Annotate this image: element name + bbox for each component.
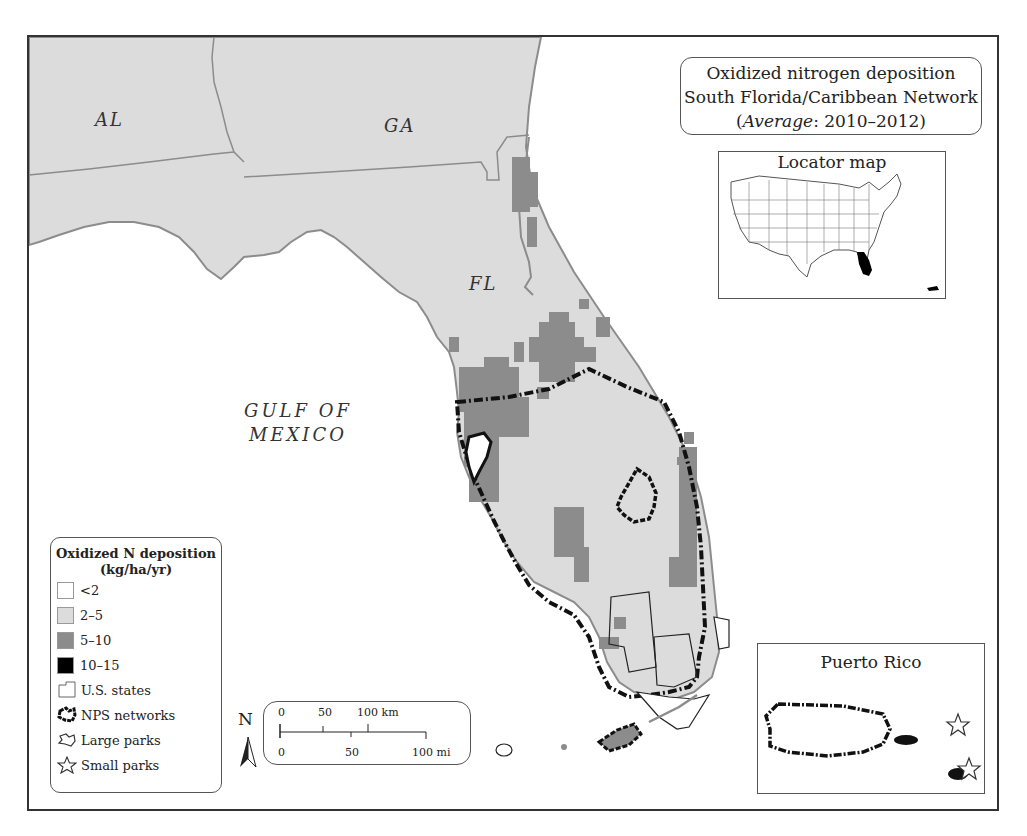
- gulf-label-line2: MEXICO: [244, 423, 352, 447]
- title-line2: South Florida/Caribbean Network: [681, 85, 981, 109]
- gulf-label-line1: GULF OF: [244, 399, 352, 423]
- legend-title-line1: Oxidized N deposition: [51, 546, 221, 562]
- legend-label: NPS networks: [81, 708, 175, 723]
- legend-item-lt2: <2: [57, 580, 99, 600]
- title-average-italic: Average: [743, 111, 813, 131]
- florida-highlight: [857, 252, 872, 276]
- puerto-rico-inset: Puerto Rico: [757, 643, 985, 794]
- title-line3: (Average: 2010–2012): [681, 109, 981, 133]
- scale-bar: 0 50 100 km 0 50 100 mi: [263, 701, 471, 765]
- swatch-5-10: [57, 632, 74, 649]
- title-line1: Oxidized nitrogen deposition: [681, 61, 981, 85]
- legend-label: 10–15: [80, 658, 120, 673]
- legend-item-10-15: 10–15: [57, 655, 120, 675]
- legend-label: Small parks: [81, 758, 159, 773]
- star-icon: [57, 756, 77, 774]
- scale-bar-line: [278, 722, 438, 742]
- state-label-al: AL: [95, 109, 124, 130]
- state-label-ga: GA: [384, 115, 415, 136]
- legend-title: Oxidized N deposition (kg/ha/yr): [51, 546, 221, 578]
- legend-item-5-10: 5–10: [57, 630, 111, 650]
- legend-item-small-parks: Small parks: [57, 755, 159, 775]
- us-outline: [731, 174, 901, 277]
- swatch-2-5: [57, 607, 74, 624]
- florida-keys-patch: [599, 724, 641, 751]
- legend-label: U.S. states: [81, 683, 151, 698]
- dry-tortugas-park: [496, 744, 512, 756]
- scale-mi-100: 100 mi: [412, 746, 450, 759]
- north-arrow-icon: [238, 737, 258, 769]
- legend: Oxidized N deposition (kg/ha/yr) <2 2–5 …: [50, 537, 222, 793]
- gulf-of-mexico-label: GULF OF MEXICO: [244, 399, 352, 447]
- scale-km-0: 0: [278, 706, 285, 719]
- vieques-outline: [894, 735, 918, 745]
- legend-label: <2: [80, 583, 99, 598]
- legend-label: Large parks: [81, 733, 161, 748]
- legend-label: 2–5: [80, 608, 103, 623]
- legend-item-nps-networks: NPS networks: [57, 705, 175, 725]
- scale-km-50: 50: [318, 706, 332, 719]
- nps-network-icon: [57, 706, 77, 724]
- legend-item-large-parks: Large parks: [57, 730, 161, 750]
- us-locator-map: [719, 152, 944, 297]
- scale-mi-0: 0: [278, 746, 285, 759]
- small-park-star-1: [947, 714, 969, 735]
- legend-item-us-states: U.S. states: [57, 680, 151, 700]
- scale-km-100: 100 km: [357, 706, 399, 719]
- locator-map-title: Locator map: [719, 152, 945, 172]
- state-outline-icon: [57, 681, 77, 699]
- locator-map-inset: Locator map: [718, 151, 946, 299]
- state-label-fl: FL: [469, 273, 497, 294]
- map-frame: AL GA FL GULF OF MEXICO Oxidized nitroge…: [27, 35, 999, 811]
- puerto-rico-highlight: [927, 286, 939, 291]
- scale-mi-50: 50: [345, 746, 359, 759]
- north-arrow: N: [236, 709, 258, 775]
- puerto-rico-nps-outline: [766, 704, 890, 756]
- legend-title-line2: (kg/ha/yr): [51, 562, 221, 578]
- map-title-box: Oxidized nitrogen deposition South Flori…: [680, 57, 982, 135]
- puerto-rico-title: Puerto Rico: [758, 652, 984, 672]
- dry-tortugas-dot: [561, 744, 567, 750]
- large-park-icon: [57, 731, 77, 749]
- legend-label: 5–10: [80, 633, 111, 648]
- north-label: N: [238, 709, 253, 729]
- swatch-lt2: [57, 582, 74, 599]
- swatch-10-15: [57, 657, 74, 674]
- legend-item-2-5: 2–5: [57, 605, 103, 625]
